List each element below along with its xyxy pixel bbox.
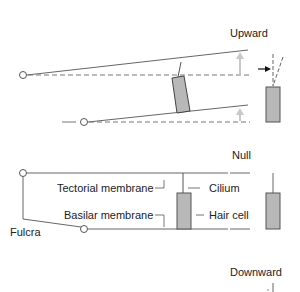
hair-cell-detail	[266, 87, 280, 122]
upward-title: Upward	[230, 27, 268, 39]
tectorial-leader	[155, 180, 164, 188]
basilar-membrane-label: Basilar membrane	[64, 209, 153, 221]
hair-cell-tilted	[172, 76, 190, 113]
downward-panel: Downward	[230, 266, 282, 292]
hair-cell-detail	[266, 193, 280, 229]
null-panel: Null Tectorial membrane Basilar membrane…	[10, 149, 280, 238]
cilium-deflected-position	[273, 57, 283, 86]
lower-fulcrum-icon	[81, 119, 88, 126]
basilar-leader	[155, 215, 164, 227]
upward-arrow-icon	[236, 108, 244, 121]
tectorial-membrane-label: Tectorial membrane	[57, 182, 154, 194]
upper-fulcrum-icon	[20, 72, 27, 79]
null-title: Null	[232, 149, 251, 161]
tectorial-membrane-displaced	[27, 50, 248, 75]
downward-title: Downward	[230, 266, 282, 278]
fulcra-label: Fulcra	[10, 226, 41, 238]
hair-cell-label: Hair cell	[209, 209, 249, 221]
hair-cell-diagram: Upward Null	[0, 0, 300, 292]
deflection-arrow-icon	[258, 66, 271, 72]
upper-fulcrum-icon	[20, 170, 27, 177]
cilium-label: Cilium	[209, 182, 240, 194]
lower-fulcrum-icon	[81, 226, 88, 233]
upward-arrow-icon	[236, 52, 244, 75]
hair-cell	[177, 193, 191, 229]
upward-panel: Upward	[20, 27, 284, 126]
basilar-membrane-displaced	[88, 105, 248, 122]
